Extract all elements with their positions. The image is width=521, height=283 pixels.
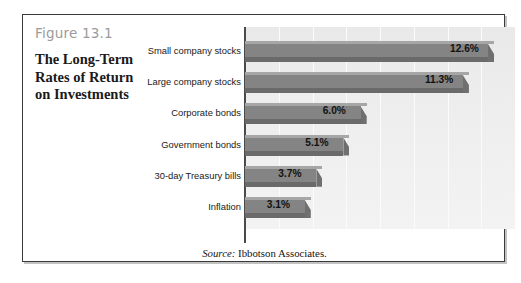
bar-value-label: 5.1%	[305, 137, 328, 148]
category-label: Inflation	[135, 201, 241, 212]
bar-side-face	[305, 200, 311, 218]
category-label: Corporate bonds	[135, 107, 241, 118]
bar-value-label: 6.0%	[323, 105, 346, 116]
bar-value-label: 11.3%	[425, 74, 453, 85]
bar: 12.6%	[245, 41, 494, 62]
bar: 3.1%	[245, 197, 311, 218]
category-label: Small company stocks	[135, 45, 241, 56]
category-label: Large company stocks	[135, 76, 241, 87]
bar-bottom-face	[245, 88, 463, 93]
category-label: 30-day Treasury bills	[135, 169, 241, 180]
source-note: Source: Ibbotson Associates.	[23, 247, 506, 259]
bar-bottom-face	[245, 213, 305, 218]
bar-side-face	[488, 44, 494, 62]
source-value: Ibbotson Associates.	[238, 247, 327, 259]
bar-side-face	[463, 75, 469, 93]
bar-chart: Small company stocksLarge company stocks…	[135, 27, 493, 245]
bar-bottom-face	[245, 57, 488, 62]
bar: 6.0%	[245, 103, 367, 124]
bar-front-face	[245, 138, 343, 151]
bar-side-face	[343, 138, 349, 156]
bar: 3.7%	[245, 166, 322, 187]
bar-bottom-face	[245, 182, 316, 187]
bar-value-label: 3.7%	[278, 168, 301, 179]
bar-bottom-face	[245, 151, 343, 156]
category-axis-labels: Small company stocksLarge company stocks…	[135, 27, 241, 227]
source-label: Source:	[202, 247, 235, 259]
bar-side-face	[361, 106, 367, 124]
bar-value-label: 3.1%	[267, 199, 290, 210]
bar-bottom-face	[245, 119, 361, 124]
category-label: Government bonds	[135, 138, 241, 149]
bar: 5.1%	[245, 135, 349, 156]
bar: 11.3%	[245, 72, 469, 93]
figure-frame: Figure 13.1 The Long-Term Rates of Retur…	[22, 14, 505, 262]
bar-side-face	[316, 169, 322, 187]
bar-value-label: 12.6%	[450, 43, 479, 54]
